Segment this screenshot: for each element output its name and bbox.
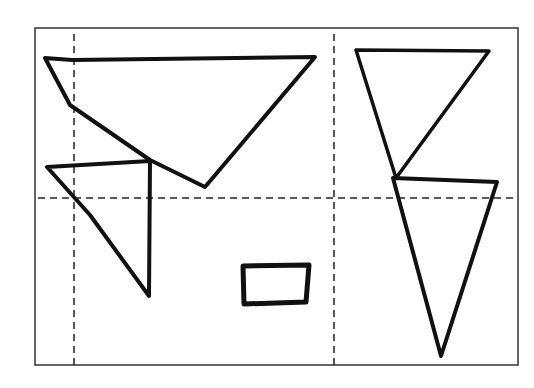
diagram-svg [0, 0, 534, 388]
small-left-triangle [47, 161, 150, 296]
lower-right-triangle [393, 178, 497, 356]
large-inverted-triangle [45, 57, 315, 187]
small-rectangle [243, 265, 309, 304]
diagram-canvas [0, 0, 534, 388]
upper-right-triangle [356, 50, 489, 178]
frame [35, 28, 518, 365]
